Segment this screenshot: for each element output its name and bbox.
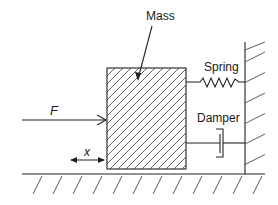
ground-hatch-line	[73, 176, 82, 194]
wall-hatch-line	[245, 155, 265, 165]
mass-hatch-line	[30, 68, 131, 169]
damper-label: Damper	[197, 111, 240, 125]
spring	[186, 78, 245, 87]
mass-hatch-line	[6, 68, 107, 169]
mass-label: Mass	[146, 9, 175, 23]
spring-coil	[186, 78, 245, 87]
ground-hatch-line	[133, 176, 142, 194]
mass-hatch-line	[94, 68, 195, 169]
wall	[245, 42, 265, 174]
mass-outline	[107, 68, 186, 169]
ground-hatch-line	[33, 176, 42, 194]
mass-hatch-line	[78, 68, 179, 169]
ground-hatch-line	[253, 176, 262, 194]
mass-spring-damper-diagram: Mass Spring Damper F x	[0, 0, 278, 205]
wall-hatch-line	[245, 73, 265, 83]
force-arrow	[22, 115, 106, 125]
wall-hatch-line	[245, 52, 265, 62]
damper	[186, 129, 245, 157]
displacement-arrow-head-left	[70, 157, 77, 163]
ground-hatch-line	[113, 176, 122, 194]
force-label: F	[50, 103, 59, 118]
mass-pointer-line	[138, 26, 152, 79]
mass-hatch-line	[54, 68, 155, 169]
mass-hatch-line	[22, 68, 123, 169]
displacement-arrow-head-right	[98, 157, 105, 163]
mass-hatch-line	[86, 68, 187, 169]
ground-hatch-line	[93, 176, 102, 194]
mass-hatch-line	[102, 68, 203, 169]
displacement-label: x	[83, 145, 91, 159]
ground-hatch-line	[193, 176, 202, 194]
mass-hatch-line	[46, 68, 147, 169]
wall-hatch-line	[245, 42, 265, 50]
mass-hatch-line	[14, 68, 115, 169]
ground	[22, 174, 265, 194]
mass-hatch-line	[110, 68, 211, 169]
ground-hatch-line	[233, 176, 242, 194]
ground-hatch-line	[53, 176, 62, 194]
wall-hatch-line	[245, 134, 265, 144]
ground-hatch-line	[213, 176, 222, 194]
wall-hatching	[245, 42, 265, 165]
spring-label: Spring	[204, 60, 239, 74]
ground-hatching	[33, 176, 262, 194]
ground-hatch-line	[173, 176, 182, 194]
wall-hatch-line	[245, 114, 265, 124]
mass-hatch-line	[62, 68, 163, 169]
ground-hatch-line	[153, 176, 162, 194]
wall-hatch-line	[245, 93, 265, 103]
